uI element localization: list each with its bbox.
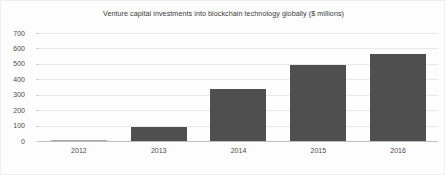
bar-slot [119, 33, 199, 141]
y-axis-tick-label: 500 [0, 60, 25, 67]
bar-slot [278, 33, 358, 141]
y-axis-tick-label: 100 [0, 122, 25, 129]
bar-2015[interactable] [290, 65, 346, 141]
x-axis-tick-label-2012: 2012 [39, 147, 119, 155]
y-axis-tick-label: 200 [0, 107, 25, 114]
bar-2014[interactable] [210, 89, 266, 141]
bar-2016[interactable] [370, 54, 426, 141]
bar-slot [39, 33, 119, 141]
x-axis-tick-label-2013: 2013 [119, 147, 199, 155]
bar-series [39, 33, 438, 141]
y-axis-tick-label: 600 [0, 45, 25, 52]
bar-slot [199, 33, 279, 141]
bar-slot [358, 33, 438, 141]
x-axis-tick-label-2016: 2016 [358, 147, 438, 155]
chart-title: Venture capital investments into blockch… [1, 9, 445, 19]
x-axis-line [39, 141, 438, 142]
x-axis-tick-label-2015: 2015 [278, 147, 358, 155]
bar-2013[interactable] [131, 127, 187, 141]
y-axis-tick-label: 700 [0, 30, 25, 37]
y-axis-tick-label: 400 [0, 76, 25, 83]
y-axis-tick-label: 0 [0, 138, 25, 145]
y-axis-tick-label: 300 [0, 91, 25, 98]
x-axis-tick-label-2014: 2014 [199, 147, 279, 155]
chart-screenshot: Venture capital investments into blockch… [0, 0, 445, 175]
